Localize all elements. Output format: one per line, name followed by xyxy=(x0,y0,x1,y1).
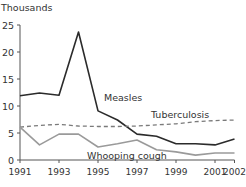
measles-line xyxy=(20,32,235,145)
y-axis-label: Thousands xyxy=(0,2,52,13)
x-tick-label: 1993 xyxy=(48,167,71,177)
x-tick-label: 2002 xyxy=(223,167,246,177)
measles-label: Measles xyxy=(104,92,142,103)
tuberculosis-label: Tuberculosis xyxy=(150,109,209,120)
y-tick-label: 20 xyxy=(2,47,14,58)
line-chart: Thousands 051015202519911993199519971999… xyxy=(0,0,246,187)
y-tick-label: 10 xyxy=(2,101,14,112)
whooping-cough-label: Whooping cough xyxy=(87,150,167,161)
tuberculosis-line xyxy=(20,120,235,127)
x-tick-label: 1991 xyxy=(9,167,32,177)
y-tick-label: 5 xyxy=(8,128,14,139)
y-tick-label: 0 xyxy=(8,155,14,166)
y-tick-label: 15 xyxy=(2,74,14,85)
y-tick-label: 25 xyxy=(2,20,14,31)
x-tick-label: 1995 xyxy=(87,167,110,177)
x-tick-label: 1997 xyxy=(126,167,149,177)
x-tick-label: 1999 xyxy=(165,167,188,177)
